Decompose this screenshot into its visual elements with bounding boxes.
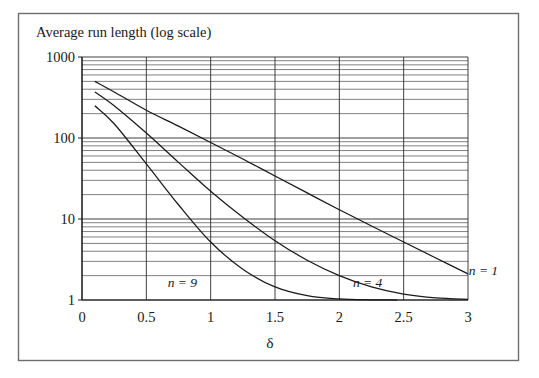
figure-container: Average run length (log scale) 110100100… [0,0,539,378]
y-tick-label: 100 [53,130,75,146]
x-axis-title: δ [266,334,273,351]
curve-label-n-9: n = 9 [168,275,198,290]
y-tick-label: 1 [68,292,75,308]
x-tick-label: 1 [207,309,214,325]
x-tick-label: 0 [78,309,85,325]
y-tick-label: 1000 [46,49,75,65]
curve-label-text: n = 4 [353,275,383,290]
x-tick-label: 2 [336,309,343,325]
x-tick-label: 2.5 [395,309,413,325]
x-tick-label: 1.5 [266,309,284,325]
y-tick-label: 10 [61,211,76,227]
curve-label-text: n = 1 [469,263,498,278]
curve-label-n-1: n = 1 [469,263,498,278]
x-tick-label: 3 [464,309,471,325]
curve-label-n-4: n = 4 [353,275,383,290]
x-tick-label: 0.5 [137,309,155,325]
x-tick-labels-group: 00.511.522.53 [78,309,471,325]
curve-label-text: n = 9 [168,275,198,290]
y-axis-title: Average run length (log scale) [36,24,211,41]
chart-svg: Average run length (log scale) 110100100… [0,0,539,378]
